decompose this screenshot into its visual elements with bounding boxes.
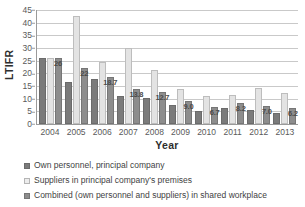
y-axis-tick-45: 45 — [23, 6, 32, 15]
y-axis-tick-labels: 454035302520151050 — [12, 10, 34, 125]
y-tick-mark — [32, 86, 35, 87]
bar-2006-series-2[interactable] — [99, 62, 106, 124]
bar-group-2007: 13.8 — [115, 10, 141, 124]
y-axis-tick-15: 15 — [23, 82, 32, 91]
bar-value-label: 9.0 — [184, 103, 194, 111]
bar-2013-series-3[interactable]: 6.2 — [289, 108, 296, 124]
y-tick-mark — [32, 99, 35, 100]
legend-swatch-icon — [24, 193, 30, 199]
bar-value-label: 8.2 — [236, 105, 246, 113]
bar-group-2011: 8.2 — [220, 10, 246, 124]
y-tick-mark — [32, 10, 35, 11]
legend-label: Suppliers in principal company's premise… — [34, 176, 192, 185]
bar-value-label: 22 — [80, 70, 88, 78]
x-axis-tick-2006: 2006 — [89, 127, 115, 137]
legend-item-series-1[interactable]: Own personnel, principal company — [24, 158, 302, 173]
bar-2006-series-1[interactable] — [91, 79, 98, 124]
bar-2004-series-3[interactable]: 26 — [55, 58, 62, 124]
x-axis-tick-2005: 2005 — [63, 127, 89, 137]
x-axis-tick-2008: 2008 — [141, 127, 167, 137]
x-axis-tick-2011: 2011 — [220, 127, 246, 137]
bar-group-2008: 12.7 — [141, 10, 167, 124]
bar-2009-series-3[interactable]: 9.0 — [185, 101, 192, 124]
bar-2010-series-3[interactable]: 6.7 — [211, 107, 218, 124]
y-axis-tick-0: 0 — [27, 120, 32, 129]
bar-group-2004: 26 — [37, 10, 63, 124]
bar-2007-series-1[interactable] — [117, 96, 124, 124]
bar-group-2009: 9.0 — [167, 10, 193, 124]
legend-label: Combined (own personnel and suppliers) i… — [34, 191, 267, 200]
legend-item-series-2[interactable]: Suppliers in principal company's premise… — [24, 173, 302, 188]
bar-value-label: 6.7 — [210, 109, 220, 117]
x-axis-tick-2009: 2009 — [167, 127, 193, 137]
x-axis-tick-2010: 2010 — [194, 127, 220, 137]
x-axis-tick-labels: 2004200520062007200820092010201120122013 — [37, 127, 298, 137]
bar-value-label: 26 — [54, 60, 62, 68]
bar-2010-series-1[interactable] — [195, 111, 202, 124]
bar-2009-series-1[interactable] — [169, 105, 176, 124]
y-axis-tick-30: 30 — [23, 44, 32, 53]
x-axis-tick-2007: 2007 — [115, 127, 141, 137]
legend-label: Own personnel, principal company — [34, 161, 164, 170]
bar-group-2005: 22 — [63, 10, 89, 124]
y-tick-mark — [32, 111, 35, 112]
bar-2008-series-3[interactable]: 12.7 — [159, 92, 166, 124]
x-axis-tick-2013: 2013 — [272, 127, 298, 137]
ltifr-bar-chart: LTIFR 454035302520151050 262218.713.812.… — [0, 0, 305, 207]
y-axis-tick-20: 20 — [23, 69, 32, 78]
y-axis-tick-40: 40 — [23, 18, 32, 27]
chart-legend: Own personnel, principal companySupplier… — [24, 158, 302, 203]
bar-2007-series-3[interactable]: 13.8 — [133, 89, 140, 124]
bar-2011-series-1[interactable] — [221, 108, 228, 124]
y-tick-mark — [32, 35, 35, 36]
legend-swatch-icon — [24, 178, 30, 184]
bar-group-2013: 6.2 — [272, 10, 298, 124]
bar-group-2012: 7.0 — [246, 10, 272, 124]
bar-2012-series-1[interactable] — [247, 110, 254, 124]
bar-2007-series-2[interactable] — [125, 48, 132, 124]
y-tick-mark — [32, 73, 35, 74]
y-tick-mark — [32, 23, 35, 24]
bar-groups: 262218.713.812.79.06.78.27.06.2 — [37, 10, 298, 124]
y-axis-tick-25: 25 — [23, 56, 32, 65]
bar-2011-series-3[interactable]: 8.2 — [237, 103, 244, 124]
bar-2004-series-1[interactable] — [39, 58, 46, 124]
x-axis-tick-2012: 2012 — [246, 127, 272, 137]
bar-2008-series-1[interactable] — [143, 98, 150, 124]
bar-group-2006: 18.7 — [89, 10, 115, 124]
x-axis-tick-2004: 2004 — [37, 127, 63, 137]
bar-2012-series-3[interactable]: 7.0 — [263, 106, 270, 124]
legend-item-series-3[interactable]: Combined (own personnel and suppliers) i… — [24, 188, 302, 203]
y-axis-tick-10: 10 — [23, 94, 32, 103]
x-axis-title: Year — [36, 139, 298, 151]
bar-2005-series-1[interactable] — [65, 82, 72, 124]
y-axis-tick-35: 35 — [23, 31, 32, 40]
bar-2005-series-3[interactable]: 22 — [81, 68, 88, 124]
bar-value-label: 6.2 — [288, 110, 298, 118]
y-axis-tick-5: 5 — [27, 107, 32, 116]
y-tick-mark — [32, 124, 35, 125]
legend-swatch-icon — [24, 163, 30, 169]
y-tick-mark — [32, 48, 35, 49]
bar-2012-series-2[interactable] — [255, 88, 262, 124]
bar-2004-series-2[interactable] — [47, 58, 54, 124]
bar-2013-series-1[interactable] — [273, 113, 280, 124]
bar-2005-series-2[interactable] — [73, 16, 80, 124]
bar-2006-series-3[interactable]: 18.7 — [107, 77, 114, 124]
bar-value-label: 7.0 — [262, 108, 272, 116]
bar-group-2010: 6.7 — [194, 10, 220, 124]
y-tick-mark — [32, 61, 35, 62]
